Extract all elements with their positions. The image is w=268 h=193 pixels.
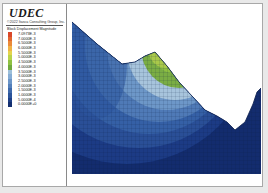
- model-plot: [67, 4, 262, 186]
- slope-mesh-graphic: [67, 4, 264, 188]
- legend-panel: UDEC ©2022 Itasca Consulting Group, Inc.…: [3, 4, 67, 186]
- legend-swatch: [8, 102, 12, 107]
- legend-title: Block Displacement Magnitude: [7, 27, 56, 31]
- color-legend: 7.0973E-37.0000E-36.5000E-36.0000E-35.50…: [8, 32, 36, 107]
- legend-value: 0.0000E+0: [18, 102, 36, 107]
- copyright-text: ©2022 Itasca Consulting Group, Inc.: [7, 20, 65, 24]
- header-divider: [6, 25, 63, 26]
- legend-entry: 0.0000E+0: [8, 102, 36, 107]
- udec-plot-window: UDEC ©2022 Itasca Consulting Group, Inc.…: [2, 3, 263, 187]
- app-title: UDEC: [9, 6, 44, 21]
